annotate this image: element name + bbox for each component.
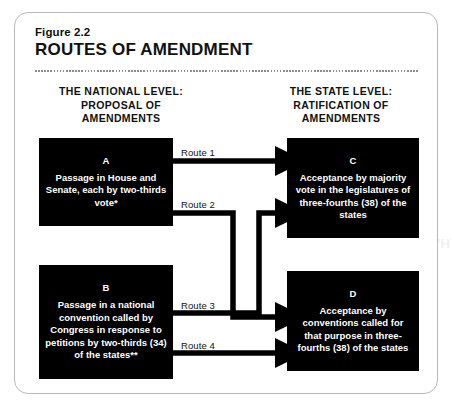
- node-a-text: Passage in House and Senate, each by two…: [39, 172, 173, 210]
- route-4-label: Route 4: [181, 340, 215, 351]
- node-b: B Passage in a national convention calle…: [39, 265, 173, 379]
- node-d-text: Acceptance by conventions called for tha…: [287, 305, 419, 355]
- node-d: D Acceptance by conventions called for t…: [287, 271, 419, 371]
- node-d-letter: D: [350, 288, 357, 299]
- node-c-letter: C: [350, 155, 357, 166]
- figure-frame: Figure 2.2 ROUTES OF AMENDMENT THE NATIO…: [14, 12, 438, 394]
- node-b-text: Passage in a national convention called …: [39, 299, 173, 362]
- node-c: C Acceptance by majority vote in the leg…: [287, 138, 419, 238]
- node-c-text: Acceptance by majority vote in the legis…: [287, 172, 419, 222]
- route-2-label: Route 2: [181, 199, 215, 210]
- node-a: A Passage in House and Senate, each by t…: [39, 138, 173, 226]
- route-3-label: Route 3: [181, 300, 215, 311]
- node-b-letter: B: [103, 282, 110, 293]
- route-1-label: Route 1: [181, 147, 215, 158]
- node-a-letter: A: [103, 155, 110, 166]
- route-3-arrow: [173, 213, 277, 313]
